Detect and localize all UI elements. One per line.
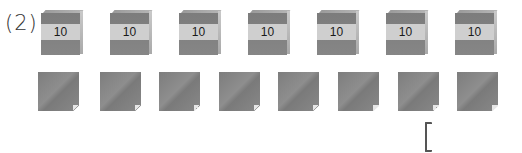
ten-block: 10 (179, 10, 221, 56)
unit-sheet (278, 72, 319, 111)
block-value-label: 10 (179, 24, 218, 40)
ten-block: 10 (110, 10, 152, 56)
unit-sheet (457, 72, 498, 111)
block-side (149, 11, 152, 54)
unit-sheet (338, 72, 379, 111)
block-side (218, 11, 221, 54)
block-value-label: 10 (110, 24, 149, 40)
answer-bracket[interactable] (425, 122, 432, 152)
block-side (356, 11, 359, 54)
block-side (287, 11, 290, 54)
unit-sheet (100, 72, 141, 111)
block-value-label: 10 (386, 24, 425, 40)
block-value-label: 10 (248, 24, 287, 40)
unit-sheet (219, 72, 260, 111)
problem-label: (2) (5, 11, 38, 35)
unit-sheet (38, 72, 79, 111)
block-side (494, 11, 497, 54)
unit-sheet (159, 72, 200, 111)
ten-block: 10 (248, 10, 290, 56)
block-side (80, 11, 83, 54)
ten-block: 10 (41, 10, 83, 56)
block-value-label: 10 (317, 24, 356, 40)
ten-block: 10 (317, 10, 359, 56)
unit-sheet (398, 72, 439, 111)
block-value-label: 10 (41, 24, 80, 40)
block-value-label: 10 (455, 24, 494, 40)
ten-block: 10 (455, 10, 497, 56)
ten-block: 10 (386, 10, 428, 56)
block-side (425, 11, 428, 54)
